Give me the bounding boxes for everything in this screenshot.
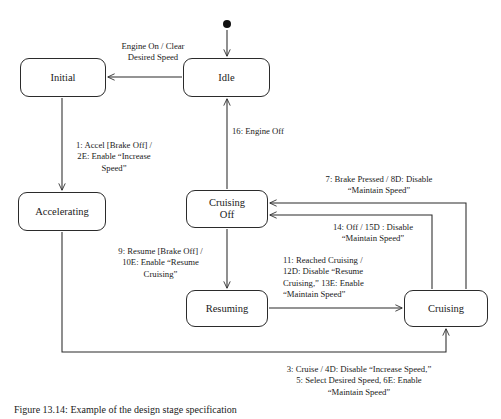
state-cruising-off[interactable]: Cruising Off <box>186 190 268 228</box>
transition-label-engine-off: 16: Engine Off <box>232 126 312 137</box>
state-initial[interactable]: Initial <box>20 58 106 97</box>
transition-label-accel: 1: Accel [Brake Off] / 2E: Enable “Incre… <box>55 140 173 174</box>
state-label: Cruising <box>428 303 464 315</box>
figure-caption: Figure 13.14: Example of the design stag… <box>14 404 237 415</box>
state-diagram-canvas: Initial Idle Accelerating Cruising Off R… <box>0 0 501 419</box>
state-label: Cruising Off <box>209 197 245 221</box>
transition-label-off: 14: Off / 15D : Disable “Maintain Speed” <box>297 222 449 245</box>
state-label: Accelerating <box>35 206 89 218</box>
transition-label-resume: 9: Resume [Brake Off] / 10E: Enable “Res… <box>98 246 223 280</box>
state-label: Resuming <box>206 303 249 315</box>
state-label: Initial <box>50 72 75 84</box>
transition-label-cruise: 3: Cruise / 4D: Disable “Increase Speed,… <box>255 364 463 398</box>
state-label: Idle <box>218 72 234 84</box>
transition-label-brake-pressed: 7: Brake Pressed / 8D: Disable “Maintain… <box>287 174 471 197</box>
initial-pseudostate-icon <box>223 20 231 28</box>
state-resuming[interactable]: Resuming <box>186 290 268 327</box>
state-accelerating[interactable]: Accelerating <box>18 192 106 231</box>
state-cruising[interactable]: Cruising <box>404 290 488 327</box>
transition-label-reached-cruising: 11: Reached Cruising / 12D: Disable “Res… <box>283 255 408 301</box>
transition-label-engine-on: Engine On / Clear Desired Speed <box>101 41 205 64</box>
